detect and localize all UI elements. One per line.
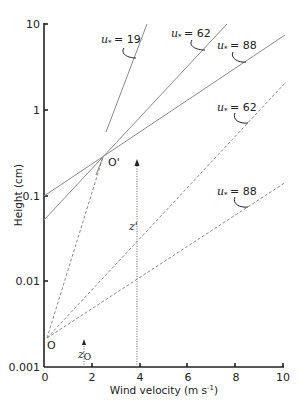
- arrowhead-icon: [82, 339, 86, 345]
- svg-text:u*: u*: [217, 39, 228, 53]
- annotation-solid-u19: u* = 19: [101, 33, 141, 58]
- x-tick-label: 6: [185, 371, 192, 384]
- svg-text:= 88: = 88: [230, 39, 257, 52]
- z-prime-label: z': [128, 220, 138, 233]
- arrowhead-icon: [135, 159, 140, 166]
- pointer-arrow-icon: [191, 40, 205, 50]
- x-tick-label: 2: [89, 371, 96, 384]
- svg-text:u*: u*: [217, 101, 228, 115]
- annotation-dashed-u62: u* = 62: [217, 101, 257, 123]
- line-dashed-u62: [47, 82, 286, 338]
- line-dashed-u88: [47, 182, 286, 338]
- y-tick-label: 1: [33, 104, 40, 117]
- pointer-arrow-icon: [234, 113, 248, 123]
- y-tick-label: 0.01: [16, 275, 41, 288]
- svg-text:= 62: = 62: [230, 101, 257, 114]
- pointer-arrow-icon: [234, 197, 248, 207]
- x-tick-label: 0: [42, 371, 49, 384]
- x-tick-label: 10: [276, 371, 290, 384]
- z0-label: zO: [77, 348, 91, 362]
- point-O-prime-label: O': [108, 156, 120, 169]
- svg-text:u*: u*: [171, 27, 182, 41]
- line-dashed-to-O-prime: [47, 157, 103, 338]
- y-axis-label: Height (cm): [12, 164, 24, 226]
- point-O-label: O: [47, 339, 56, 352]
- annotation-solid-u88: u* = 88: [217, 39, 257, 62]
- x-tick-label: 8: [233, 371, 240, 384]
- y-tick-label: 10: [26, 18, 40, 31]
- y-tick-label: 0.001: [9, 361, 41, 374]
- wind-profile-chart: 10 1 0.1 0.01 0.001 0 2 4 6 8 10 Wind ve…: [0, 0, 303, 405]
- svg-text:u*: u*: [101, 33, 112, 47]
- svg-text:= 19: = 19: [114, 33, 141, 46]
- x-axis-label: Wind velocity (m s-1): [110, 384, 218, 396]
- line-solid-u88: [44, 35, 285, 196]
- pointer-arrow-icon: [123, 48, 136, 58]
- svg-text:u*: u*: [217, 185, 228, 199]
- x-tick-label: 4: [137, 371, 144, 384]
- svg-text:= 62: = 62: [184, 27, 211, 40]
- svg-text:= 88: = 88: [230, 185, 257, 198]
- annotation-solid-u62: u* = 62: [171, 27, 211, 50]
- pointer-arrow-icon: [232, 52, 246, 62]
- annotation-dashed-u88: u* = 88: [217, 185, 257, 207]
- y-tick-label: 0.1: [23, 190, 41, 203]
